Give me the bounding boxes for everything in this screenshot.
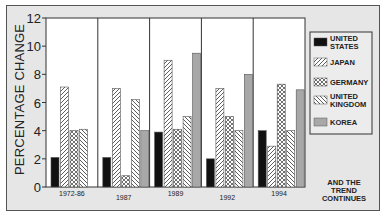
y-axis: 024681012 [27, 11, 46, 195]
legend-label: STATES [330, 42, 358, 51]
bar-germany-1992 [225, 117, 233, 187]
y-axis-title: PERCENTAGE CHANGE [12, 24, 27, 175]
bar-japan-1972-86 [61, 87, 69, 187]
bar-united-kingdom-1994 [287, 131, 295, 187]
legend-label: KOREA [330, 118, 358, 127]
plot-area [46, 18, 305, 187]
legend-label: JAPAN [330, 58, 355, 67]
bar-japan-1987 [112, 88, 120, 187]
y-tick-label: 6 [34, 96, 41, 111]
x-tick-label: 1989 [168, 190, 184, 197]
bar-korea-1992 [244, 74, 252, 187]
y-tick-label: 2 [34, 152, 41, 167]
bar-germany-1987 [122, 176, 130, 187]
legend-swatch [314, 78, 327, 86]
bar-chart: 024681012 1972-861987198919921994 PERCEN… [0, 0, 387, 216]
legend-swatch [314, 38, 327, 46]
legend-label: GERMANY [330, 78, 368, 87]
bar-germany-1972-86 [70, 131, 78, 187]
bar-united-states-1987 [103, 157, 111, 187]
y-tick-label: 4 [34, 124, 41, 139]
legend: UNITEDSTATESJAPANGERMANYUNITEDKINGDOMKOR… [310, 32, 372, 134]
legend-swatch [314, 58, 327, 66]
bar-korea-1987 [141, 131, 149, 187]
bar-korea-1994 [296, 90, 304, 187]
legend-swatch [314, 118, 327, 126]
x-tick-label: 1987 [116, 194, 132, 201]
bar-united-states-1992 [206, 159, 214, 187]
x-tick-label: 1972-86 [59, 190, 85, 197]
bar-united-states-1989 [155, 132, 163, 187]
y-tick-label: 8 [34, 67, 41, 82]
annotation-line: CONTINUES [322, 194, 366, 203]
x-tick-label: 1992 [220, 194, 236, 201]
y-tick-label: 0 [34, 180, 41, 195]
legend-label: KINGDOM [330, 100, 366, 109]
trend-annotation: AND THETRENDCONTINUES [322, 178, 366, 203]
x-tick-label: 1994 [271, 190, 287, 197]
bar-germany-1989 [174, 129, 182, 187]
bar-korea-1989 [193, 53, 201, 187]
bar-united-states-1994 [258, 131, 266, 187]
bar-united-kingdom-1972-86 [80, 129, 88, 187]
y-tick-label: 10 [27, 39, 41, 54]
bar-germany-1994 [277, 84, 285, 187]
bar-united-kingdom-1987 [131, 100, 139, 187]
bar-japan-1994 [268, 146, 276, 187]
y-tick-label: 12 [27, 11, 41, 26]
bar-japan-1989 [164, 60, 172, 187]
bar-japan-1992 [216, 88, 224, 187]
bar-united-kingdom-1989 [183, 117, 191, 187]
legend-swatch [314, 96, 327, 104]
x-axis-labels: 1972-861987198919921994 [59, 190, 287, 201]
bar-united-states-1972-86 [51, 157, 59, 187]
bar-united-kingdom-1992 [235, 131, 243, 187]
